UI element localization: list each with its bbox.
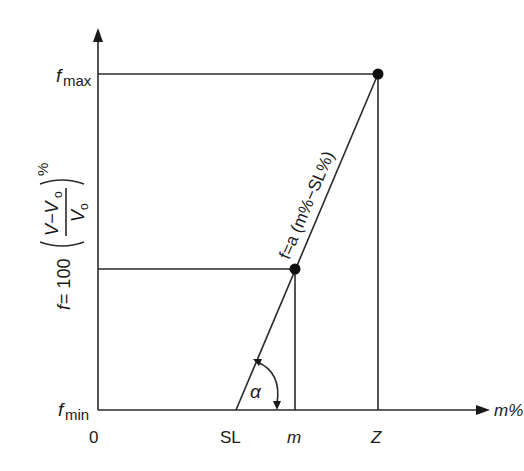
x-axis-label: m% xyxy=(494,401,523,420)
x-axis-arrow-icon xyxy=(476,405,490,415)
diagram-canvas: α f=a (m%−SL%) f max f min 0 SL m Z m% f… xyxy=(0,0,524,471)
fmin-label-base: f xyxy=(58,399,65,420)
svg-text:o: o xyxy=(77,203,91,210)
function-line-label: f=a (m%−SL%) xyxy=(276,148,339,262)
x-tick-z: Z xyxy=(370,428,382,447)
x-tick-sl: SL xyxy=(220,428,241,447)
angle-arrow-bottom-icon xyxy=(273,401,281,410)
fmax-label-base: f xyxy=(56,65,63,86)
svg-text:= 100: = 100 xyxy=(54,258,74,304)
z-point-marker xyxy=(373,69,384,80)
fmax-label-sub: max xyxy=(63,72,92,89)
y-axis-label: f = 100 V−V o V o % xyxy=(34,163,91,310)
svg-text:%: % xyxy=(34,163,51,176)
m-point-marker xyxy=(290,264,301,275)
y-axis-arrow-icon xyxy=(93,28,103,42)
svg-text:o: o xyxy=(51,191,65,198)
x-tick-m: m xyxy=(287,428,301,447)
angle-label: α xyxy=(250,381,262,402)
x-tick-0: 0 xyxy=(89,428,98,447)
fmin-label-sub: min xyxy=(65,406,89,423)
svg-text:V−V: V−V xyxy=(42,199,62,236)
